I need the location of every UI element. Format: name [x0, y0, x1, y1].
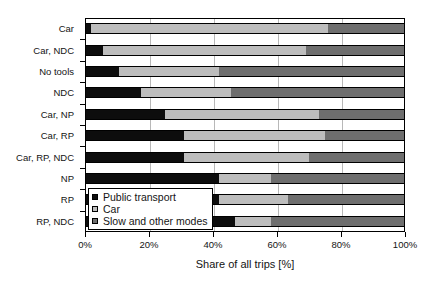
- bar-segment: [219, 66, 405, 77]
- bar-segment: [165, 109, 319, 120]
- bar-segment: [288, 194, 405, 205]
- x-axis-tick-label: 100%: [382, 239, 428, 250]
- bar-segment: [119, 66, 220, 77]
- x-axis-tick-label: 60%: [254, 239, 300, 250]
- x-axis-tick: [85, 232, 86, 237]
- y-axis-label: NP: [61, 168, 74, 189]
- stacked-bar: [85, 130, 405, 141]
- stacked-bar: [85, 66, 405, 77]
- x-axis-tick: [405, 232, 406, 237]
- y-axis-label: RP, NDC: [36, 211, 74, 232]
- chart-legend: Public transportCarSlow and other modes: [88, 188, 213, 230]
- bar-row: [85, 104, 405, 125]
- stacked-bar: [85, 87, 405, 98]
- bar-segment: [309, 152, 405, 163]
- bar-segment: [219, 173, 270, 184]
- stacked-bar-chart: CarCar, NDCNo toolsNDCCar, NPCar, RPCar,…: [0, 0, 440, 286]
- stacked-bar: [85, 173, 405, 184]
- bar-segment: [184, 130, 325, 141]
- legend-item: Car: [92, 203, 207, 215]
- bar-row: [85, 125, 405, 146]
- x-axis-tick-label: 20%: [126, 239, 172, 250]
- y-axis-label: NDC: [53, 82, 74, 103]
- y-axis-label: Car: [59, 18, 74, 39]
- bar-row: [85, 61, 405, 82]
- y-axis-label: Car, NP: [41, 104, 74, 125]
- x-axis-tick: [341, 232, 342, 237]
- stacked-bar: [85, 23, 405, 34]
- bar-row: [85, 18, 405, 39]
- x-axis-tick-label: 0%: [62, 239, 108, 250]
- bar-row: [85, 146, 405, 167]
- bar-segment: [85, 66, 119, 77]
- y-axis-label: Car, RP: [41, 125, 74, 146]
- y-axis-label: RP: [61, 189, 74, 210]
- legend-item: Public transport: [92, 191, 207, 203]
- bar-row: [85, 168, 405, 189]
- bar-segment: [103, 45, 306, 56]
- legend-swatch-icon: [92, 206, 98, 212]
- y-axis-label: Car, RP, NDC: [16, 146, 74, 167]
- bar-row: [85, 82, 405, 103]
- bar-segment: [85, 109, 165, 120]
- bar-segment: [319, 109, 405, 120]
- x-axis-tick: [213, 232, 214, 237]
- bar-segment: [91, 23, 328, 34]
- bar-segment: [306, 45, 405, 56]
- bar-segment: [328, 23, 405, 34]
- bar-segment: [85, 45, 103, 56]
- legend-label: Car: [103, 203, 120, 215]
- legend-swatch-icon: [92, 194, 98, 200]
- bar-segment: [85, 152, 184, 163]
- stacked-bar: [85, 109, 405, 120]
- y-axis-label: No tools: [39, 61, 74, 82]
- bar-segment: [184, 152, 309, 163]
- bar-segment: [219, 194, 288, 205]
- bar-segment: [85, 87, 141, 98]
- bar-row: [85, 39, 405, 60]
- bar-segment: [325, 130, 405, 141]
- x-axis-tick-label: 40%: [190, 239, 236, 250]
- legend-label: Public transport: [103, 191, 176, 203]
- stacked-bar: [85, 152, 405, 163]
- bar-segment: [231, 87, 405, 98]
- bar-segment: [85, 173, 219, 184]
- x-axis-tick-label: 80%: [318, 239, 364, 250]
- bar-segment: [235, 216, 270, 227]
- x-axis-tick: [149, 232, 150, 237]
- bar-segment: [85, 130, 184, 141]
- bar-segment: [141, 87, 231, 98]
- bar-segment: [271, 216, 405, 227]
- stacked-bar: [85, 45, 405, 56]
- legend-swatch-icon: [92, 218, 98, 224]
- legend-label: Slow and other modes: [103, 215, 207, 227]
- bar-segment: [271, 173, 405, 184]
- legend-item: Slow and other modes: [92, 215, 207, 227]
- x-axis-title: Share of all trips [%]: [85, 258, 405, 270]
- y-axis-category-labels: CarCar, NDCNo toolsNDCCar, NPCar, RPCar,…: [0, 18, 80, 232]
- x-axis-tick: [277, 232, 278, 237]
- y-axis-label: Car, NDC: [33, 39, 74, 60]
